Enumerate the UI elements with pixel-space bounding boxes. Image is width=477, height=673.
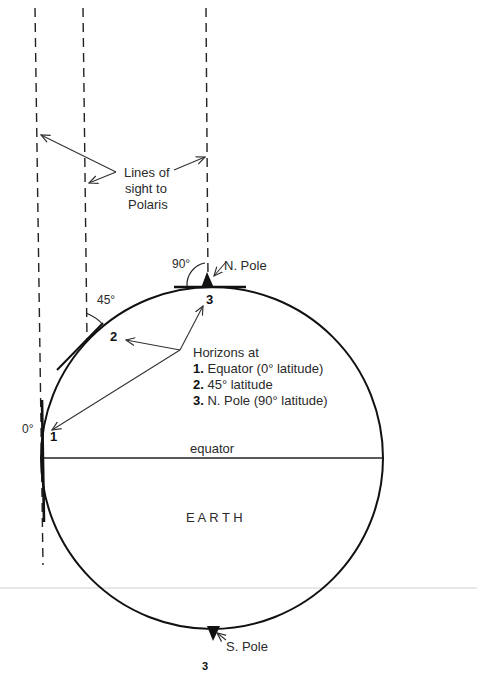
legend-item-3-num: 3. bbox=[193, 393, 204, 408]
legend-title: Horizons at bbox=[193, 345, 259, 360]
north-pole-label: N. Pole bbox=[224, 258, 267, 273]
angle-label-90: 90° bbox=[172, 257, 190, 271]
pointer-arrow bbox=[126, 340, 180, 350]
lines-of-sight-label-3: Polaris bbox=[128, 197, 168, 212]
line-of-sight-pole bbox=[206, 8, 208, 280]
legend-item-2-text: 45° latitude bbox=[204, 377, 273, 392]
north-pole-marker-icon bbox=[201, 272, 214, 288]
pointer-arrow bbox=[174, 157, 205, 170]
equator-label: equator bbox=[190, 441, 235, 456]
angle-arc-45 bbox=[86, 313, 103, 325]
horizon-45 bbox=[57, 323, 103, 370]
angle-label-45: 45° bbox=[97, 293, 115, 307]
pointer-arrow bbox=[217, 633, 226, 640]
polaris-latitude-diagram: Lines of sight to Polaris N. Pole S. Pol… bbox=[0, 0, 477, 673]
legend-item-1-num: 1. bbox=[193, 361, 204, 376]
pointer-arrow bbox=[41, 135, 116, 172]
legend-item-1: 1. Equator (0° latitude) bbox=[193, 361, 323, 376]
angle-label-0: 0° bbox=[22, 422, 34, 436]
lines-of-sight-label-2: sight to bbox=[125, 181, 167, 196]
legend-item-3: 3. N. Pole (90° latitude) bbox=[193, 393, 328, 408]
page-number: 3 bbox=[202, 660, 208, 672]
point-marker-2: 2 bbox=[110, 329, 117, 344]
legend-item-2: 2. 45° latitude bbox=[193, 377, 273, 392]
legend-item-3-text: N. Pole (90° latitude) bbox=[204, 393, 328, 408]
pointer-arrow bbox=[180, 306, 203, 350]
pointer-arrow bbox=[89, 172, 116, 183]
legend-item-2-num: 2. bbox=[193, 377, 204, 392]
earth-label: E A R T H bbox=[186, 510, 243, 525]
south-pole-label: S. Pole bbox=[226, 639, 268, 654]
line-of-sight-45 bbox=[83, 8, 87, 340]
point-marker-1: 1 bbox=[50, 429, 57, 444]
lines-of-sight-label-1: Lines of bbox=[124, 165, 170, 180]
point-marker-3: 3 bbox=[206, 292, 213, 307]
legend-item-1-text: Equator (0° latitude) bbox=[204, 361, 323, 376]
